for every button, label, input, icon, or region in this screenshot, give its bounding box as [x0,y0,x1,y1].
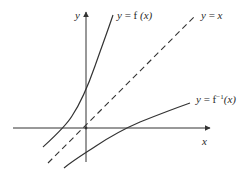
f-inverse-curve-label: y = f−1(x) [195,93,236,106]
identity-line-label: y = x [200,9,223,21]
f-curve-label: y = f (x) [116,9,153,22]
f-inverse-curve [64,103,190,168]
f-label-eq: = f [122,9,140,21]
inverse-function-diagram: y x y = f (x) y = x y = f−1(x) [0,0,252,177]
f-label-arg: (x) [140,9,153,22]
origin-point [85,127,88,130]
f-curve [43,15,113,147]
f-inverse-label-arg: (x) [224,93,237,106]
identity-line [48,15,196,163]
x-axis-label: x [201,135,207,147]
identity-label-arg: x [217,9,223,21]
y-axis-label: y [74,9,80,21]
